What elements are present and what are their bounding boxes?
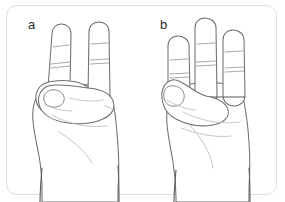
thumbnail-b	[164, 86, 184, 106]
thumbnail-a	[44, 90, 64, 107]
figure-canvas: a	[0, 0, 285, 202]
panel-b: b	[143, 0, 285, 202]
hand-illustration-a	[6, 0, 148, 202]
hand-illustration-b	[143, 0, 285, 202]
panel-a: a	[6, 0, 148, 202]
